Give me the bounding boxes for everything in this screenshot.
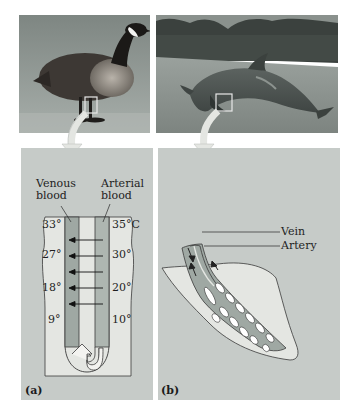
- panel-a-goose-countercurrent: Venous blood Arterial blood 33° 27° 18° …: [21, 148, 153, 400]
- vein-column: [65, 217, 79, 347]
- venous-blood-label: Venous blood: [36, 178, 76, 202]
- vein-label: Vein: [281, 226, 305, 238]
- arterial-temp-2: 30°: [112, 249, 132, 261]
- arterial-blood-label: Arterial blood: [101, 178, 144, 202]
- venous-temp-2: 27°: [42, 249, 62, 261]
- venous-temp-1: 33°: [42, 219, 62, 231]
- panel-a-letter: (a): [25, 384, 43, 397]
- panel-b-letter: (b): [161, 384, 179, 397]
- artery-column: [95, 217, 109, 347]
- arterial-temp-4: 10°: [112, 314, 132, 326]
- arterial-label-line2: blood: [101, 190, 144, 202]
- panel-b-dolphin-flipper: Vein Artery (b): [158, 148, 340, 400]
- artery-label: Artery: [281, 240, 317, 252]
- venous-temp-4: 9°: [48, 314, 61, 326]
- arterial-temp-3: 20°: [112, 282, 132, 294]
- venous-temp-3: 18°: [42, 282, 62, 294]
- arterial-temp-1: 35°C: [112, 219, 140, 231]
- venous-label-line2: blood: [36, 190, 76, 202]
